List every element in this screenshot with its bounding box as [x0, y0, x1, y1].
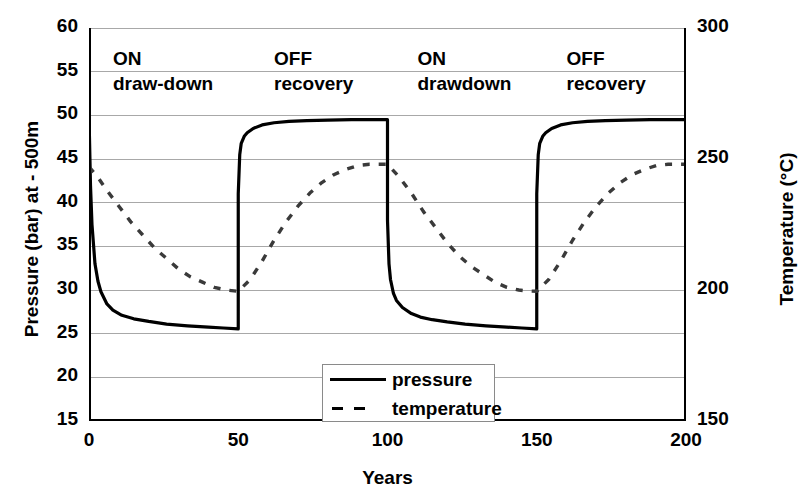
legend-swatch-dashed-line-icon	[330, 394, 386, 423]
legend-label-pressure: pressure	[392, 365, 472, 394]
legend-label-temperature: temperature	[392, 394, 502, 423]
annotation-line-2: drawdown	[417, 71, 511, 96]
y-tick-label-left-45: 45	[22, 146, 78, 168]
y-tick-label-right-200: 200	[697, 277, 757, 299]
y-tick-label-left-55: 55	[22, 59, 78, 81]
axis-line-right	[684, 28, 686, 421]
legend-item-pressure: pressure	[323, 365, 496, 394]
x-tick-label-100: 100	[353, 429, 423, 451]
annotation-line-1: OFF	[567, 46, 646, 71]
plot-area: ONdraw-downOFFrecoveryONdrawdownOFFrecov…	[89, 28, 686, 421]
y-tick-label-right-300: 300	[697, 15, 757, 37]
annotation-phase-2: OFFrecovery	[274, 46, 353, 96]
annotation-line-1: ON	[113, 46, 213, 71]
y-tick-label-left-25: 25	[22, 321, 78, 343]
y-tick-label-left-40: 40	[22, 190, 78, 212]
y-axis-right-title: Temperature (°C)	[776, 79, 798, 379]
x-tick-label-200: 200	[651, 429, 721, 451]
y-tick-label-left-15: 15	[22, 408, 78, 430]
data-series-group	[89, 115, 686, 329]
legend-swatch-solid-line-icon	[330, 365, 386, 394]
y-tick-label-left-50: 50	[22, 102, 78, 124]
y-tick-label-right-250: 250	[697, 146, 757, 168]
y-tick-label-left-60: 60	[22, 15, 78, 37]
y-tick-label-left-35: 35	[22, 233, 78, 255]
legend-item-temperature: temperature	[323, 394, 496, 423]
x-tick-label-150: 150	[502, 429, 572, 451]
y-tick-label-left-20: 20	[22, 364, 78, 386]
annotation-line-2: recovery	[274, 71, 353, 96]
x-tick-label-50: 50	[203, 429, 273, 451]
chart-legend: pressure temperature	[322, 364, 495, 422]
annotation-line-1: OFF	[274, 46, 353, 71]
axis-line-left	[89, 28, 91, 421]
annotation-line-1: ON	[417, 46, 511, 71]
x-tick-label-0: 0	[54, 429, 124, 451]
annotation-phase-1: ONdraw-down	[113, 46, 213, 96]
annotation-phase-4: OFFrecovery	[567, 46, 646, 96]
annotation-phase-3: ONdrawdown	[417, 46, 511, 96]
annotation-line-2: recovery	[567, 71, 646, 96]
annotation-line-2: draw-down	[113, 71, 213, 96]
x-axis-title: Years	[89, 467, 686, 489]
y-tick-label-right-150: 150	[697, 408, 757, 430]
y-tick-label-left-30: 30	[22, 277, 78, 299]
